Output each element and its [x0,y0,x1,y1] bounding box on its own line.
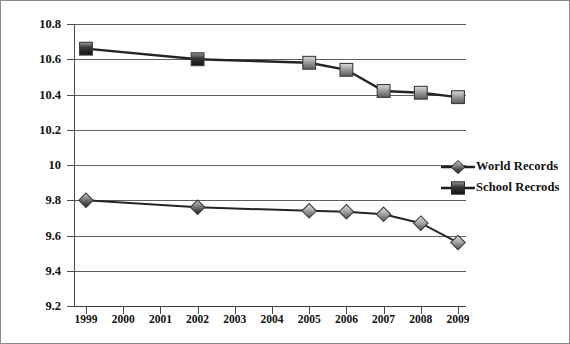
y-tick-label: 10.8 [39,18,61,31]
legend-label-school-records: School Recrods [476,180,559,195]
data-point-diamond [339,205,353,219]
square-marker-icon [441,180,475,196]
x-tick-label: 2004 [261,314,284,326]
y-tick-label: 9.8 [45,194,61,207]
y-tick-mark [67,271,75,272]
x-axis-line [74,306,466,307]
y-tick-mark [67,95,75,96]
legend-item-world-records: World Records [441,156,559,177]
x-tick-label: 2003 [223,314,246,326]
chart-container: 9.29.49.69.81010.210.410.610.8 199920002… [0,0,570,344]
y-tick-mark [67,24,75,25]
y-tick-label: 10.6 [39,53,61,66]
data-point-diamond [302,204,316,218]
plot-area [74,24,466,306]
x-tick-label: 2007 [372,314,395,326]
data-point-square [452,91,465,104]
data-point-diamond [190,200,204,214]
y-tick-label: 9.6 [45,229,61,242]
y-tick-mark [67,200,75,201]
series-line [86,49,458,97]
data-point-square [414,86,427,99]
y-tick-mark [67,165,75,166]
diamond-marker-icon [441,159,475,175]
y-tick-mark [67,236,75,237]
y-tick-label: 10 [49,159,62,172]
series-school-records [80,42,465,103]
data-point-square [340,63,353,76]
data-point-diamond [414,216,428,230]
y-tick-label: 9.2 [45,300,61,313]
y-tick-label: 9.4 [45,265,61,278]
legend-label-world-records: World Records [476,159,558,174]
data-point-diamond [79,193,93,207]
x-tick-label: 2000 [112,314,135,326]
x-tick-label: 2005 [298,314,321,326]
chart-legend: World Records School Recrods [441,156,559,198]
x-tick-label: 2006 [335,314,358,326]
data-point-square [377,85,390,98]
legend-item-school-records: School Recrods [441,177,559,198]
x-tick-label: 2002 [186,314,209,326]
y-tick-label: 10.2 [39,124,61,137]
data-point-square [191,53,204,66]
series-line [86,200,458,242]
data-point-square [80,42,93,55]
x-tick-label: 2001 [149,314,172,326]
data-point-diamond [376,207,390,221]
y-tick-label: 10.4 [39,88,61,101]
data-point-diamond [451,235,465,249]
y-tick-mark [67,59,75,60]
x-tick-label: 2009 [447,314,470,326]
data-point-square [303,56,316,69]
series-world-records [79,193,465,250]
y-tick-mark [67,130,75,131]
y-tick-mark [67,306,75,307]
series-svg [74,24,466,306]
x-tick-label: 2008 [409,314,432,326]
x-tick-label: 1999 [75,314,98,326]
